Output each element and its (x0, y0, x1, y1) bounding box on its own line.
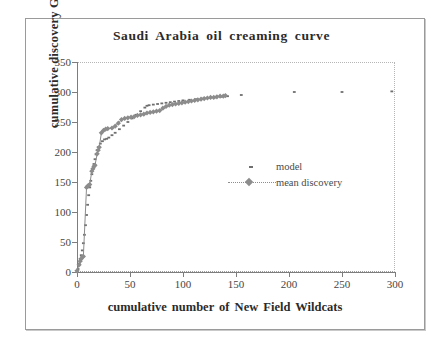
y-tick-mark (72, 152, 77, 153)
x-axis-tick-marks (0, 272, 443, 280)
y-tick-mark (72, 92, 77, 93)
figure-root: Saudi Arabia oil creaming curve 05010015… (0, 0, 443, 345)
x-tick-mark (77, 272, 78, 277)
x-tick-mark (342, 272, 343, 277)
x-tick-mark (289, 272, 290, 277)
y-tick-mark (72, 62, 77, 63)
dot-marker-icon (249, 166, 253, 168)
y-tick-mark (72, 122, 77, 123)
legend-label-mean-discovery: mean discovery (276, 175, 342, 191)
y-tick-mark (72, 182, 77, 183)
legend-marker-model (228, 161, 276, 173)
legend-item-model: model (228, 158, 348, 174)
x-tick-mark (130, 272, 131, 277)
y-axis-title: cumulative discovery Gb (47, 0, 62, 170)
y-tick-mark (72, 212, 77, 213)
x-tick-mark (395, 272, 396, 277)
legend-marker-mean-discovery (228, 177, 276, 189)
x-tick-mark (236, 272, 237, 277)
chart-legend: model mean discovery (228, 158, 348, 190)
y-tick-label: 50 (37, 236, 71, 248)
y-tick-label: 150 (37, 176, 71, 188)
plot-wrapper: 050100150200250300350 050100150200250300… (0, 0, 443, 345)
diamond-marker-icon (245, 178, 253, 186)
y-tick-mark (72, 242, 77, 243)
x-axis-tick-labels: 050100150200250300 (0, 278, 443, 294)
y-tick-label: 100 (37, 206, 71, 218)
x-axis-title: cumulative number of New Field Wildcats (40, 300, 410, 315)
legend-item-mean-discovery: mean discovery (228, 174, 348, 190)
x-tick-mark (183, 272, 184, 277)
legend-label-model: model (276, 159, 302, 175)
